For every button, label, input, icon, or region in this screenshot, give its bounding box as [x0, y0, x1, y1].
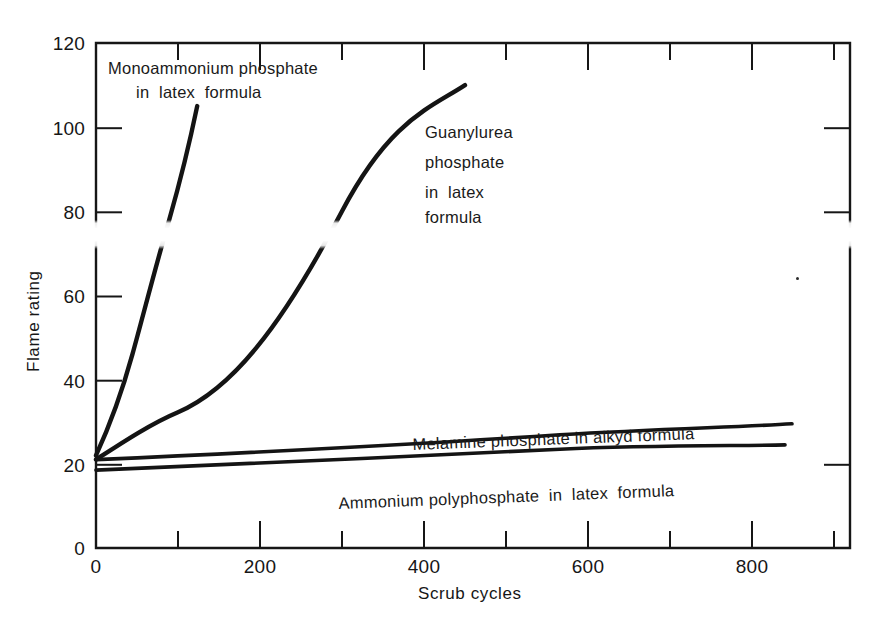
series-label-monoammonium-line2: in latex formula: [136, 80, 262, 104]
xtick-label-200: 200: [230, 556, 290, 578]
ytick-label-100: 100: [30, 118, 85, 140]
plot-frame: [96, 43, 850, 548]
series-label-guanylurea-line1: Guanylurea: [425, 120, 513, 144]
ytick-label-80: 80: [30, 202, 85, 224]
xtick-label-800: 800: [722, 556, 782, 578]
x-axis-ticks: [178, 521, 834, 548]
xtick-label-600: 600: [558, 556, 618, 578]
plot-canvas: [0, 0, 887, 636]
chart-figure: 120 100 80 60 40 20 0 0 200 400 600 800 …: [0, 0, 887, 636]
ytick-label-120: 120: [30, 33, 85, 55]
series-label-guanylurea-line4: formula: [425, 205, 482, 229]
scan-speck: [796, 277, 799, 280]
y-axis-ticks-right: [824, 128, 850, 465]
curve-monoammonium-phosphate: [96, 106, 197, 455]
ytick-label-40: 40: [30, 371, 85, 393]
y-axis-ticks: [96, 128, 122, 465]
x-axis-title: Scrub cycles: [418, 584, 522, 604]
curve-guanylurea-phosphate: [96, 85, 465, 460]
series-label-monoammonium-line1: Monoammonium phosphate: [108, 56, 318, 80]
y-axis-title: Flame rating: [24, 270, 44, 372]
xtick-label-400: 400: [394, 556, 454, 578]
series-label-guanylurea-line2: phosphate: [425, 150, 504, 174]
series-label-guanylurea-line3: in latex: [425, 180, 484, 204]
ytick-label-20: 20: [30, 455, 85, 477]
xtick-label-0: 0: [66, 556, 126, 578]
